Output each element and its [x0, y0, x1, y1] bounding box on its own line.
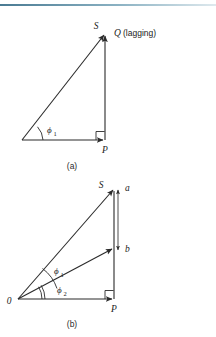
- figure-a-caption: (a): [67, 161, 78, 171]
- figure-b-label-origin: 0: [7, 296, 12, 306]
- figure-b-caption: (b): [67, 319, 78, 329]
- figure-a-label-phi1-subscript: 1: [54, 130, 57, 137]
- figure-a-label-q-note: (lagging): [123, 28, 156, 38]
- figure-b-label-b: b: [125, 244, 130, 254]
- top-rule-divider: [0, 4, 216, 6]
- figure-a-label-phi1: ϕ: [47, 125, 52, 135]
- figure-b-label-s: S: [99, 180, 104, 190]
- figure-root: S Q (lagging) P ϕ 1 (a): [0, 0, 216, 337]
- figure-b-label-phi2-subscript: 2: [64, 290, 67, 297]
- figure-b-label-phi1: ϕ: [54, 266, 59, 276]
- figure-b-label-phi1-subscript: 1: [61, 271, 64, 278]
- canvas-background: [0, 0, 216, 337]
- phasor-diagram-svg: S Q (lagging) P ϕ 1 (a): [0, 0, 216, 337]
- figure-a-label-p: P: [101, 145, 108, 155]
- figure-b-label-p: P: [110, 304, 117, 314]
- figure-a-label-s: S: [94, 21, 99, 31]
- figure-b-label-a: a: [125, 183, 130, 193]
- figure-a-label-q: Q: [114, 28, 121, 38]
- figure-b-label-phi2: ϕ: [57, 285, 62, 295]
